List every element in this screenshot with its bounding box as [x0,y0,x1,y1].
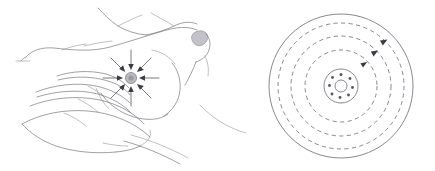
stimulus-center-core [128,75,133,80]
stimulus-ray [137,58,151,72]
wave-hub [324,69,358,103]
direction-arrowhead [360,62,367,68]
direction-arrowhead [371,51,378,57]
illustration-svg: Tactile stimulus and concentric wave pro… [0,0,435,171]
figure-container: Tactile stimulus and concentric wave pro… [0,0,435,171]
stimulus-ray [139,75,159,81]
hub-dot [349,77,352,80]
stimulus-ray [111,58,125,72]
palm-outline [96,88,168,119]
hand-stimulus-panel [16,8,210,164]
hub-dot [331,93,334,96]
stimulus-ray [111,84,125,98]
hand-crease-details [64,86,105,126]
hub-dot [351,86,354,89]
hub-dot [340,73,343,76]
stimulus-ray [137,84,151,98]
hub-dot [328,84,331,87]
concentric-wave-panel [269,14,413,158]
hub-dot [347,94,350,97]
hub-inner-ring [335,80,347,92]
stimulus-ray [128,86,134,106]
direction-arrowhead [380,40,388,46]
thumb-nail-shape [192,31,210,62]
hub-dot [339,96,342,99]
hand-right-edge [152,50,208,116]
connector-stroke [200,105,246,133]
hub-dot [331,76,334,79]
stimulus-burst [103,50,159,106]
hand-dorsal-outline [16,8,197,61]
fingers-outline [22,72,188,164]
stimulus-ray [128,50,134,70]
